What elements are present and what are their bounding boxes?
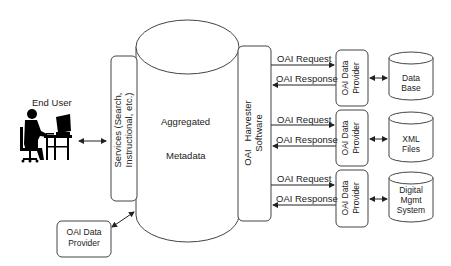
end-user-label: End User <box>32 97 72 108</box>
end-user-icon <box>20 109 72 163</box>
provider-2-line1: OAI Data <box>340 110 351 166</box>
services-label-line2: Instructional, etc.) <box>123 65 134 195</box>
store-2-line2: Files <box>389 144 433 154</box>
store-2-line1: XML <box>389 134 433 144</box>
provider-2-line2: Provider <box>351 110 362 166</box>
store-3-line3: System <box>389 205 433 215</box>
provider-label-3: OAI Data Provider <box>340 170 364 226</box>
local-provider-line2: Provider <box>57 238 111 249</box>
provider-3-line1: OAI Data <box>340 170 351 226</box>
store-label-1: Data Base <box>389 73 433 93</box>
provider-3-line2: Provider <box>351 170 362 226</box>
store-3-line2: Mgmt <box>389 195 433 205</box>
request-label-2: OAI Request <box>277 114 331 125</box>
services-label-line1: Services (Search, <box>112 65 123 195</box>
harvester-label-line1: OAI Harvester <box>242 78 253 188</box>
provider-label-1: OAI Data Provider <box>340 50 364 106</box>
provider-1-line2: Provider <box>351 50 362 106</box>
response-label-2: OAI Response <box>276 134 338 145</box>
store-1-line1: Data <box>389 73 433 83</box>
store-3-line1: Digital <box>389 185 433 195</box>
harvester-label: OAI Harvester Software <box>242 78 266 188</box>
response-label-3: OAI Response <box>276 193 338 204</box>
response-label-1: OAI Response <box>276 73 338 84</box>
local-provider-arrow <box>112 212 134 227</box>
harvester-label-line2: Software <box>253 78 264 188</box>
request-label-3: OAI Request <box>277 173 331 184</box>
services-label: Services (Search, Instructional, etc.) <box>112 65 136 195</box>
local-provider-line1: OAI Data <box>57 227 111 238</box>
provider-1-line1: OAI Data <box>340 50 351 106</box>
store-1-line2: Base <box>389 83 433 93</box>
local-provider-label: OAI Data Provider <box>57 227 111 249</box>
aggregated-metadata-cylinder <box>136 20 239 242</box>
store-label-3: Digital Mgmt System <box>389 185 433 215</box>
store-label-2: XML Files <box>389 134 433 154</box>
provider-label-2: OAI Data Provider <box>340 110 364 166</box>
request-label-1: OAI Request <box>277 53 331 64</box>
metadata-label: Metadata <box>166 150 206 161</box>
aggregated-label: Aggregated <box>161 116 210 127</box>
